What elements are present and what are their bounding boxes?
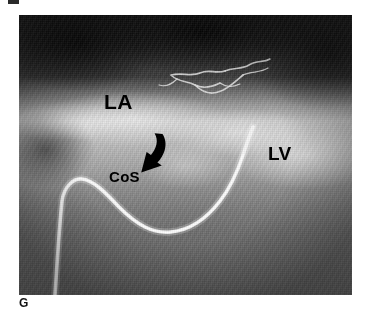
clipped-top-mark xyxy=(8,0,19,4)
label-left-ventricle: LV xyxy=(268,144,291,163)
film-vignette xyxy=(19,15,352,295)
angiogram-image xyxy=(19,15,352,295)
figure-panel-letter: G xyxy=(19,296,28,310)
label-left-atrium: LA xyxy=(104,91,133,112)
pointer-arrow-icon xyxy=(128,132,172,178)
